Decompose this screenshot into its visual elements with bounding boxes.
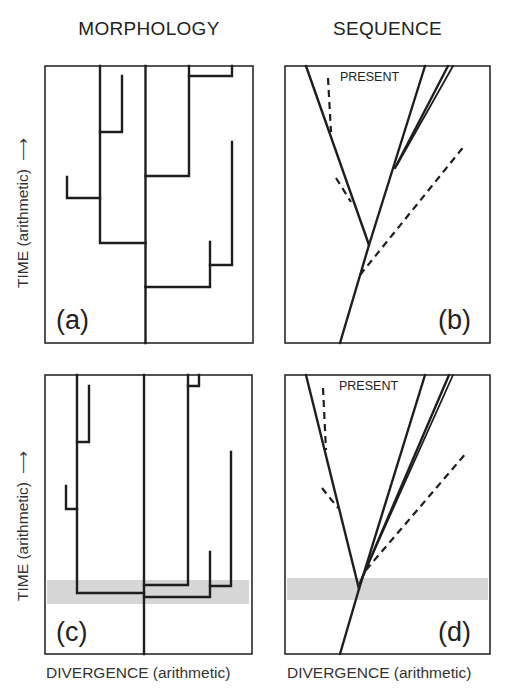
panel-c: (c) bbox=[45, 375, 252, 654]
panel-label: (d) bbox=[438, 617, 471, 647]
shaded-time-band bbox=[287, 578, 488, 600]
panel-label: (b) bbox=[438, 305, 471, 335]
panel-d: PRESENT (d) bbox=[285, 375, 490, 654]
present-label: PRESENT bbox=[339, 379, 398, 393]
panel-label: (a) bbox=[56, 305, 89, 335]
panel-frame bbox=[285, 66, 490, 343]
present-label: PRESENT bbox=[340, 70, 399, 84]
panel-b: PRESENT (b) bbox=[285, 66, 490, 343]
panel-a: (a) bbox=[45, 66, 253, 343]
figure-canvas: (a) PRESENT (b) bbox=[0, 0, 505, 697]
panel-frame bbox=[45, 66, 253, 343]
panel-label: (c) bbox=[56, 617, 87, 647]
